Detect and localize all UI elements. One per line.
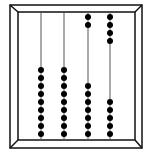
bead-bottom <box>61 83 67 89</box>
abacus-rods <box>38 12 113 140</box>
bead-top <box>107 38 113 44</box>
frame-corner-tr <box>135 5 142 12</box>
bead-bottom <box>85 123 91 129</box>
bead-top <box>107 22 113 28</box>
bead-bottom <box>38 83 44 89</box>
frame-corner-tl <box>10 5 18 12</box>
rod-3 <box>85 12 91 140</box>
bead-bottom <box>61 75 67 81</box>
bead-bottom <box>107 99 113 105</box>
bead-bottom <box>85 107 91 113</box>
bead-bottom <box>61 91 67 97</box>
bead-bottom <box>38 67 44 73</box>
abacus-diagram <box>0 0 152 153</box>
bead-bottom <box>107 123 113 129</box>
bead-top <box>85 22 91 28</box>
bead-bottom <box>38 99 44 105</box>
abacus-frame <box>10 5 142 148</box>
bead-top <box>107 14 113 20</box>
bead-bottom <box>61 131 67 137</box>
bead-bottom <box>85 131 91 137</box>
bead-bottom <box>107 115 113 121</box>
bead-bottom <box>38 115 44 121</box>
bead-bottom <box>85 115 91 121</box>
bead-bottom <box>107 131 113 137</box>
frame-corner-bl <box>10 140 18 148</box>
bead-bottom <box>38 91 44 97</box>
bead-bottom <box>38 107 44 113</box>
bead-bottom <box>85 99 91 105</box>
bead-bottom <box>85 83 91 89</box>
frame-inner <box>18 12 135 140</box>
bead-bottom <box>38 123 44 129</box>
bead-bottom <box>61 99 67 105</box>
bead-bottom <box>107 107 113 113</box>
bead-bottom <box>61 123 67 129</box>
frame-outer <box>10 5 142 148</box>
frame-corner-br <box>135 140 142 148</box>
rod-1 <box>38 12 44 140</box>
bead-top <box>85 14 91 20</box>
rod-4 <box>107 12 113 140</box>
bead-top <box>107 30 113 36</box>
bead-bottom <box>61 115 67 121</box>
bead-bottom <box>61 107 67 113</box>
rod-2 <box>61 12 67 140</box>
bead-bottom <box>38 131 44 137</box>
bead-bottom <box>38 75 44 81</box>
bead-bottom <box>85 91 91 97</box>
bead-bottom <box>61 67 67 73</box>
